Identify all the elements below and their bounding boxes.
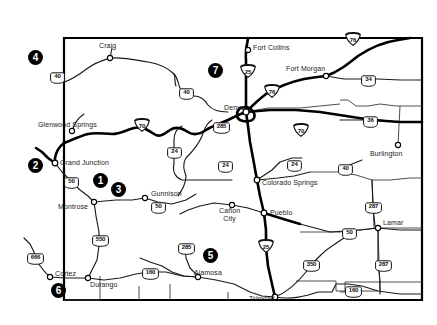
shield-i-25-south: 25 [258, 239, 274, 253]
shield-label: 76 [264, 84, 280, 98]
shield-i-70-east: 70 [293, 123, 309, 137]
shield-us-350: 350 [302, 258, 321, 270]
city-label-lamar: Lamar [383, 219, 403, 226]
map-marker-1[interactable]: 1 [93, 173, 108, 188]
shield-us-40-west: 40 [49, 70, 66, 82]
shield-label: 24 [286, 158, 303, 170]
shield-label: 550 [91, 233, 110, 245]
map-marker-6[interactable]: 6 [51, 283, 66, 298]
shield-label: 287 [374, 258, 393, 270]
shield-label: 285 [177, 241, 196, 253]
city-label-fort-collins: Fort Collins [253, 44, 290, 51]
shield-label: 40 [49, 70, 66, 82]
map-marker-7[interactable]: 7 [208, 63, 223, 78]
city-label-canon-city-line2: City [223, 215, 235, 222]
shield-us-666: 666 [26, 251, 45, 263]
city-label-glenwood-springs: Glenwood Springs [38, 121, 97, 128]
city-label-canon-city-line1: Cañon [219, 207, 240, 214]
shield-us-50-east: 50 [341, 226, 358, 238]
shield-us-287-north: 287 [364, 200, 383, 212]
shield-us-50-gunnison: 50 [150, 200, 167, 212]
shield-us-287-south: 287 [374, 258, 393, 270]
city-label-durango: Durango [90, 281, 118, 288]
shield-label: 666 [26, 251, 45, 263]
shield-label: 50 [150, 200, 167, 212]
colorado-highway-map: Craig Fort Collins Fort Morgan Denver Gl… [0, 0, 437, 325]
city-label-denver: Denver [224, 104, 247, 111]
shield-label: 160 [141, 266, 160, 278]
shield-label: 70 [134, 118, 150, 132]
shield-i-25-north: 25 [240, 64, 256, 78]
shield-label: 36 [362, 114, 379, 126]
shield-us-24-north: 24 [166, 145, 183, 157]
shield-label: 76 [345, 32, 361, 46]
shield-us-50-west: 50 [63, 175, 80, 187]
shield-us-160-west: 160 [141, 266, 160, 278]
shield-label: 160 [344, 284, 363, 296]
shield-us-40-nw: 40 [178, 86, 195, 98]
shield-label: 34 [360, 73, 377, 85]
city-label-fort-morgan: Fort Morgan [286, 65, 325, 72]
city-label-canon-city: Cañon City [219, 207, 240, 223]
shield-label: 40 [337, 162, 354, 174]
shield-label: 40 [178, 86, 195, 98]
city-label-alamosa: Alamosa [194, 269, 222, 276]
shield-label: 25 [240, 64, 256, 78]
shield-us-34: 34 [360, 73, 377, 85]
city-label-pueblo: Pueblo [270, 209, 292, 216]
city-label-craig: Craig [99, 42, 116, 49]
shield-label: 70 [293, 123, 309, 137]
city-label-trinidad: Trinidad [249, 295, 275, 302]
shield-label: 50 [341, 226, 358, 238]
shield-label: 50 [63, 175, 80, 187]
shield-us-285-south: 285 [177, 241, 196, 253]
shield-label: 285 [212, 120, 231, 132]
shield-us-36: 36 [362, 114, 379, 126]
shield-us-160-east: 160 [344, 284, 363, 296]
map-marker-4[interactable]: 4 [28, 50, 43, 65]
city-label-colorado-springs: Colorado Springs [262, 179, 318, 186]
city-label-montrose: Montrose [58, 203, 88, 210]
shield-us-40-east: 40 [337, 162, 354, 174]
shield-i-76-denver: 76 [264, 84, 280, 98]
shield-label: 350 [302, 258, 321, 270]
shield-label: 25 [258, 239, 274, 253]
city-label-burlington: Burlington [370, 150, 403, 157]
shield-i-70-west: 70 [134, 118, 150, 132]
city-label-cortez: Cortez [55, 270, 76, 277]
shield-label: 287 [364, 200, 383, 212]
shield-us-24-central: 24 [217, 159, 234, 171]
shield-us-550: 550 [91, 233, 110, 245]
shield-i-76-northeast: 76 [345, 32, 361, 46]
shield-us-24-east: 24 [286, 158, 303, 170]
city-label-gunnison: Gunnison [151, 190, 182, 197]
map-marker-2[interactable]: 2 [28, 158, 43, 173]
shield-us-285-north: 285 [212, 120, 231, 132]
shield-label: 24 [217, 159, 234, 171]
city-label-grand-junction: Grand Junction [60, 159, 109, 166]
map-marker-5[interactable]: 5 [203, 248, 218, 263]
map-marker-3[interactable]: 3 [111, 182, 126, 197]
shield-label: 24 [166, 145, 183, 157]
